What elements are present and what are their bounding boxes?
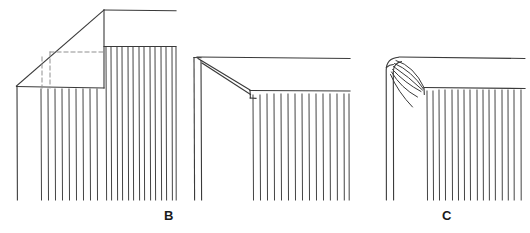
plate-background <box>0 0 530 233</box>
figure-label-b: B <box>164 209 174 222</box>
figure-b-post-inner <box>201 61 202 201</box>
figure-b-post-outer <box>194 58 195 201</box>
figure-label-c: C <box>442 209 452 222</box>
figure-plate: B C <box>0 0 530 233</box>
figure-b-panel-top-edge <box>250 91 350 92</box>
line-drawing-svg <box>0 0 530 233</box>
